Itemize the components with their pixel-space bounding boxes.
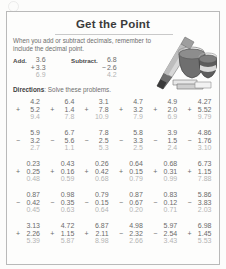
operand-top: 0.64 [119,160,143,168]
answer-value[interactable]: 5.87 [50,237,74,245]
answer-value[interactable]: 5.39 [16,237,40,245]
operand-bottom: 0.15 [129,168,143,175]
problem-cell: 5.8−3.32.5 [114,127,148,158]
answer-value[interactable]: 2.7 [16,144,40,152]
answer-value[interactable]: 0.68 [85,175,109,183]
operator-minus-icon: − [102,64,106,72]
vertical-problem: 3.13+2.265.39 [16,222,40,245]
operator-minus-icon: − [85,137,89,145]
answer-value[interactable]: 5.53 [187,237,211,245]
vertical-problem: 6.98+1.455.53 [187,222,211,245]
operand-bottom: 3.2 [133,106,143,113]
answer-value[interactable]: 6.9 [153,113,177,121]
answer-value[interactable]: 0.63 [50,206,74,214]
worked-examples: Add. 3.6 +3.3 6.9 Subtract. 6.8 −2.6 4.2 [13,56,163,82]
operand-bottom: 0.35 [61,199,75,206]
operand-bottom: 0.12 [164,199,178,206]
directions: Directions: Solve these problems. [13,86,111,93]
vertical-problem: 0.68+0.310.99 [153,160,177,183]
answer-value[interactable]: 5.3 [85,144,109,152]
vertical-problem: 6.4+1.47.8 [50,98,74,121]
example-subtract-label: Subtract. [71,57,98,64]
operator-plus-icon: + [85,168,89,176]
operand-bottom: 0.31 [164,168,178,175]
operand-top: 4.2 [16,98,40,106]
operand-bottom-line: +0.25 [16,168,40,176]
subtrahend: 2.6 [107,64,117,71]
answer-value[interactable]: 2.03 [187,206,211,214]
answer-value[interactable]: 7.88 [187,175,211,183]
operator-plus-icon: + [50,106,54,114]
operand-bottom-line: −1.5 [153,137,177,145]
operator-minus-icon: − [119,137,123,145]
answer-value[interactable]: 0.79 [119,175,143,183]
answer-value[interactable]: 7.8 [50,113,74,121]
problem-cell: 4.98−2.322.66 [114,220,148,251]
operator-plus-icon: + [187,230,191,238]
problem-cell: 4.7+3.27.9 [114,96,148,127]
operand-top: 5.86 [187,191,211,199]
operand-bottom-line: +1.4 [50,106,74,114]
answer-value[interactable]: 3.10 [187,144,211,152]
operand-bottom-line: −0.35 [50,199,74,207]
answer-value[interactable]: 0.48 [16,175,40,183]
operand-bottom-line: −1.76 [187,137,211,145]
operand-top: 5.9 [16,129,40,137]
operand-top: 7.8 [85,129,109,137]
vertical-problem: 4.9+2.06.9 [153,98,177,121]
problem-row: 5.9−3.22.76.7−5.61.17.8−2.55.35.8−3.32.5… [11,127,217,158]
operator-minus-icon: − [153,199,157,207]
answer-value[interactable]: 2.4 [153,144,177,152]
problem-cell: 5.97−2.543.43 [148,220,182,251]
operator-plus-icon: + [119,168,123,176]
answer-value[interactable]: 0.71 [153,206,177,214]
operand-top: 4.9 [153,98,177,106]
answer-value[interactable]: 9.79 [187,113,211,121]
operand-bottom: 1.4 [65,106,75,113]
worksheet-page: Get the Point When you add or subtract d… [6,11,220,265]
operand-bottom: 3.3 [133,137,143,144]
operator-minus-icon: − [187,137,191,145]
problem-cell: 6.87+2.118.98 [80,220,114,251]
problem-cell: 4.2+5.29.4 [11,96,45,127]
answer-value[interactable]: 1.1 [50,144,74,152]
operand-top: 4.72 [50,222,74,230]
addend-bottom: 3.3 [36,64,46,71]
operand-bottom-line: +1.15 [50,230,74,238]
operand-bottom-line: +0.31 [153,168,177,176]
problem-row: 4.2+5.29.46.4+1.47.83.1+7.810.94.7+3.27.… [11,96,217,127]
answer-value[interactable]: 8.98 [85,237,109,245]
operand-bottom-line: +3.2 [119,106,143,114]
answer-value[interactable]: 0.20 [119,206,143,214]
answer-value[interactable]: 0.99 [153,175,177,183]
minuend: 6.8 [102,56,117,64]
answer-value[interactable]: 9.4 [16,113,40,121]
operator-plus-icon: + [153,106,157,114]
operand-bottom: 3.2 [30,137,40,144]
operand-bottom-line: +2.11 [85,230,109,238]
answer-value[interactable]: 3.43 [153,237,177,245]
answer-value[interactable]: 2.5 [119,144,143,152]
operand-bottom-line: −2.5 [85,137,109,145]
operator-minus-icon: − [50,199,54,207]
answer-value[interactable]: 2.66 [119,237,143,245]
vertical-problem: 0.87−0.420.45 [16,191,40,214]
operand-bottom: 1.76 [198,137,212,144]
operand-top: 0.43 [50,160,74,168]
operand-bottom-line: +1.45 [187,230,211,238]
operand-top: 3.9 [153,129,177,137]
operand-bottom: 7.8 [99,106,109,113]
operand-bottom-line: −0.67 [119,199,143,207]
answer-value[interactable]: 0.45 [16,206,40,214]
answer-value[interactable]: 0.59 [50,175,74,183]
operand-top: 6.7 [50,129,74,137]
answer-value[interactable]: 10.9 [85,113,109,121]
vertical-problem: 5.9−3.22.7 [16,129,40,152]
vertical-problem: 0.43+0.160.59 [50,160,74,183]
addend-top: 3.6 [31,56,46,64]
problem-cell: 4.86−1.763.10 [182,127,216,158]
vertical-problem: 6.7−5.61.1 [50,129,74,152]
answer-value[interactable]: 7.9 [119,113,143,121]
operand-top: 6.73 [187,160,211,168]
answer-value[interactable]: 0.64 [85,206,109,214]
